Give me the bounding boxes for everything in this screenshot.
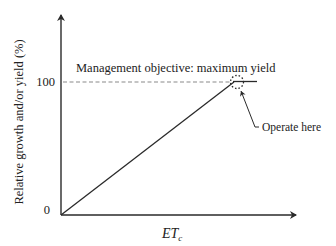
objective-label: Management objective: maximum yield — [76, 61, 276, 75]
y-tick-0-label: 0 — [44, 203, 50, 217]
callout-leader-line — [241, 91, 259, 127]
x-axis-label-main: ET — [161, 226, 180, 241]
response-line-rising — [61, 82, 234, 215]
x-axis-label: ETc — [161, 226, 182, 243]
y-axis-label: Relative growth and/or yield (%) — [12, 39, 26, 204]
callout-label: Operate here — [262, 121, 321, 134]
x-axis-label-subscript: c — [178, 233, 182, 243]
y-tick-100-label: 100 — [36, 75, 55, 89]
yield-response-diagram: Relative growth and/or yield (%) 100 0 M… — [0, 0, 336, 246]
